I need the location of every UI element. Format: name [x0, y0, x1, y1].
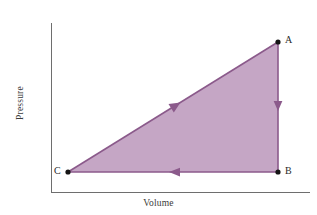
x-axis-label: Volume	[0, 198, 317, 208]
pv-diagram-canvas	[0, 0, 317, 215]
y-axis-label: Pressure	[15, 63, 25, 143]
vertex-label-a: A	[285, 34, 292, 45]
cycle-group	[65, 39, 282, 176]
pv-diagram-figure: A B C Volume Pressure	[0, 0, 317, 215]
vertex-label-b: B	[285, 165, 292, 176]
vertex-label-c: C	[54, 165, 61, 176]
vertex-dot-c	[65, 169, 70, 174]
vertex-dot-a	[275, 39, 280, 44]
vertex-dot-b	[275, 169, 280, 174]
